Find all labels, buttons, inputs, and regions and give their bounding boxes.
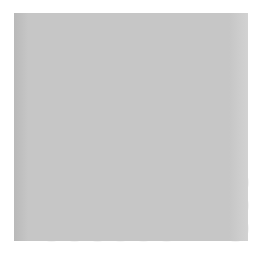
black-stone xyxy=(39,147,64,172)
black-stone xyxy=(223,169,248,194)
black-stone xyxy=(108,124,133,149)
grid-line-horizontal xyxy=(16,23,247,24)
black-stone xyxy=(39,169,64,194)
black-stone xyxy=(39,215,64,240)
white-stone xyxy=(108,147,133,172)
star-point xyxy=(232,156,238,162)
black-stone xyxy=(223,192,248,217)
black-stone xyxy=(200,147,225,172)
white-stone xyxy=(154,169,179,194)
black-stone xyxy=(177,101,202,126)
black-stone xyxy=(177,124,202,149)
grid-line-vertical xyxy=(166,13,167,239)
black-stone xyxy=(223,215,248,240)
go-board-figure: 가1 xyxy=(0,0,262,254)
white-stone xyxy=(154,215,179,240)
white-stone xyxy=(85,169,110,194)
star-point xyxy=(94,20,100,26)
black-stone xyxy=(200,169,225,194)
white-stone xyxy=(131,215,156,240)
white-stone xyxy=(108,215,133,240)
grid-line-vertical xyxy=(74,13,75,239)
grid-line-horizontal xyxy=(16,90,247,91)
black-stone xyxy=(85,124,110,149)
black-stone xyxy=(62,215,87,240)
stone-label: 1 xyxy=(131,192,156,217)
white-stone xyxy=(177,169,202,194)
star-point xyxy=(232,20,238,26)
stone-label: 가 xyxy=(131,169,156,194)
white-stone xyxy=(85,192,110,217)
grid-line-horizontal xyxy=(16,68,247,69)
grid-line-horizontal xyxy=(16,45,247,46)
white-stone xyxy=(108,192,133,217)
white-stone xyxy=(154,147,179,172)
grid-line-vertical xyxy=(28,13,29,239)
white-stone xyxy=(85,147,110,172)
labeled-white-stone: 1 xyxy=(131,192,156,217)
white-stone xyxy=(177,192,202,217)
black-stone xyxy=(200,124,225,149)
black-stone xyxy=(39,192,64,217)
black-stone xyxy=(85,215,110,240)
black-stone xyxy=(154,101,179,126)
labeled-black-stone: 가 xyxy=(131,169,156,194)
black-stone xyxy=(131,101,156,126)
